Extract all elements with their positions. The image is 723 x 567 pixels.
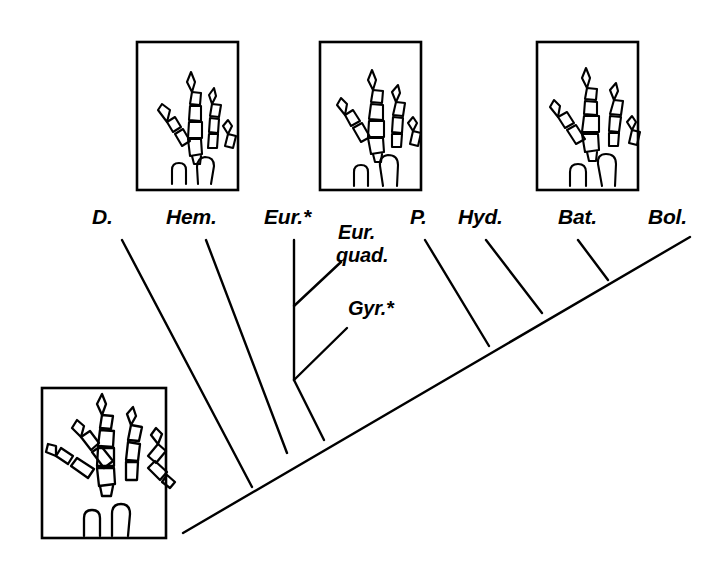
taxon-label-gyr: Gyr.* — [348, 298, 394, 319]
branch-hyd — [486, 240, 542, 313]
figure-canvas: D. Hem. Eur.* P. Hyd. Bat. Bol. Eur. qua… — [0, 0, 723, 567]
tree-branches — [122, 237, 690, 533]
taxon-label-eur-quad-line2: quad. — [336, 245, 388, 265]
branch-p — [425, 240, 489, 346]
taxon-label-p: P. — [410, 206, 427, 228]
taxon-label-bat: Bat. — [558, 206, 597, 228]
branch-eur-quad — [294, 262, 341, 306]
branch-backbone — [183, 237, 690, 533]
taxon-label-bol: Bol. — [648, 206, 687, 228]
taxon-label-d: D. — [92, 206, 113, 228]
branch-gyr — [294, 328, 347, 380]
specimen-box-top-left — [137, 42, 238, 190]
branch-eur-stem — [294, 380, 324, 440]
specimen-box-group — [42, 42, 640, 538]
taxon-label-eur-quad-line1: Eur. — [338, 222, 375, 242]
specimen-box-bottom-left — [42, 388, 175, 538]
cladogram-drawing — [0, 0, 723, 567]
taxon-label-eur: Eur.* — [264, 206, 311, 228]
branch-bat — [578, 240, 608, 280]
specimen-box-top-mid — [320, 42, 421, 190]
taxon-label-hem: Hem. — [166, 206, 217, 228]
specimen-box-top-right — [537, 42, 640, 190]
taxon-label-hyd: Hyd. — [458, 206, 503, 228]
